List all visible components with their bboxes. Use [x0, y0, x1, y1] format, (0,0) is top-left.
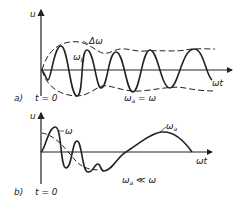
time-label-b: t = 0: [35, 187, 58, 197]
signal-label-a: ωb: [73, 52, 85, 63]
diagram: u ωt Δω ωb a) t = 0 ωa = ω u ωt ω ωa b) …: [0, 0, 245, 205]
fast-label-b: ω: [65, 126, 73, 136]
panel-b-label: b): [14, 187, 23, 197]
condition-label-a: ωa = ω: [124, 93, 156, 104]
signal-wave-a: [41, 46, 212, 96]
panel-b: u ωt ω ωa b) t = 0 ωa ≪ ω: [14, 111, 212, 197]
condition-label-b: ωa ≪ ω: [122, 175, 156, 186]
time-label-a: t = 0: [35, 93, 58, 103]
x-axis-label-b: ωt: [196, 156, 208, 166]
y-axis-label-b: u: [30, 111, 36, 121]
signal-wave-b: [41, 127, 192, 172]
slow-label-b: ωa: [166, 121, 178, 132]
x-axis-label-a: ωt: [212, 78, 224, 88]
envelope-label: Δω: [88, 36, 103, 46]
panel-a: u ωt Δω ωb a) t = 0 ωa = ω: [14, 9, 232, 104]
panel-a-label: a): [14, 93, 23, 103]
y-axis-label-a: u: [30, 9, 36, 19]
